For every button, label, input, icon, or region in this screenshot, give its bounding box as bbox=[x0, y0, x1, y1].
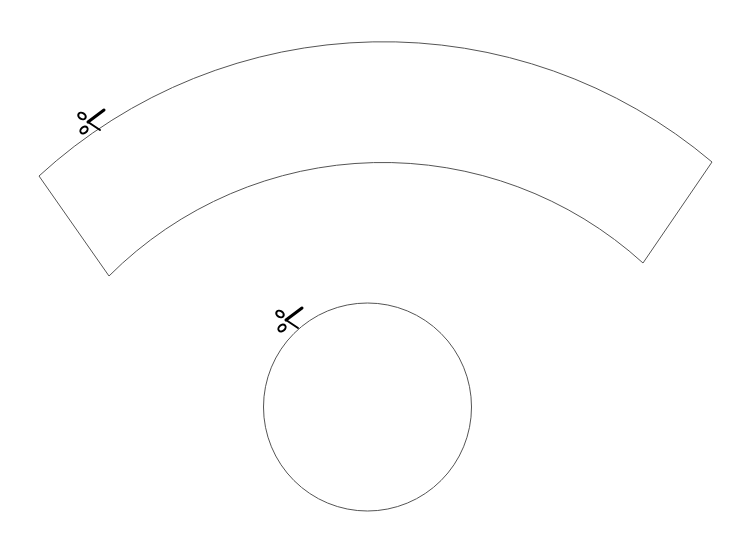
paper-template bbox=[0, 0, 751, 553]
base-circle-outline bbox=[264, 303, 472, 511]
cone-net-outline bbox=[39, 42, 712, 276]
scissors-icon bbox=[77, 110, 104, 135]
